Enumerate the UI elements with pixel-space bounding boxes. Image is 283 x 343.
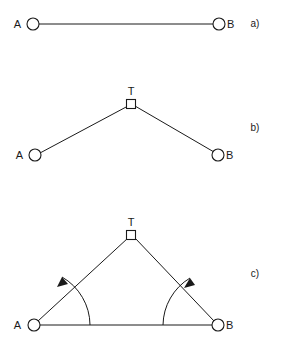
- diagram-canvas: A B a) A B T b) A: [0, 0, 283, 343]
- node-a-point-a: [27, 18, 39, 30]
- label-a-point-a: A: [14, 18, 22, 30]
- node-b-point-b: [212, 149, 224, 161]
- node-a-point-b: [213, 18, 225, 30]
- panel-label-a: a): [251, 18, 260, 29]
- node-c-point-b: [212, 319, 224, 331]
- panel-b: A B T b): [16, 85, 260, 161]
- edge-c-tb: [135, 238, 214, 321]
- edge-b-tb: [135, 106, 214, 152]
- label-c-point-a: A: [14, 319, 22, 331]
- angle-arrow-at-b: [184, 278, 195, 288]
- label-b-point-a: A: [16, 149, 24, 161]
- edge-c-at: [38, 238, 128, 321]
- node-c-point-a: [28, 319, 40, 331]
- panel-label-c: c): [251, 268, 259, 279]
- label-b-point-b: B: [226, 149, 233, 161]
- panel-a: A B a): [14, 18, 260, 30]
- edge-b-at: [40, 106, 128, 153]
- angle-arrow-at-a: [57, 277, 68, 287]
- panel-label-b: b): [251, 122, 260, 133]
- label-a-point-b: B: [227, 18, 234, 30]
- node-b-point-a: [29, 149, 41, 161]
- figure-root: A B a) A B T b) A: [0, 0, 283, 343]
- label-c-point-b: B: [226, 319, 233, 331]
- label-c-point-t: T: [128, 216, 135, 228]
- panel-c: A B T c): [14, 216, 260, 331]
- node-b-point-t: [127, 100, 136, 109]
- label-b-point-t: T: [128, 85, 135, 97]
- node-c-point-t: [127, 231, 136, 240]
